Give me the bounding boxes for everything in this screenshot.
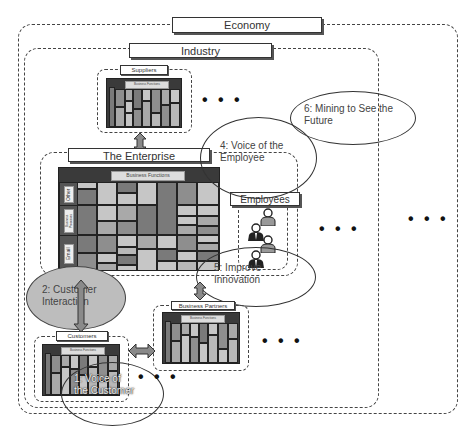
suppliers-label: Suppliers xyxy=(120,65,168,75)
callout-5-text: 5: Improve Innovation xyxy=(214,262,284,286)
matrix-header: Business Functions xyxy=(125,81,169,89)
partners-ellipsis: • • • xyxy=(262,336,303,346)
callout-1-text: 1: Voice of the Customer xyxy=(74,373,136,397)
enterprise-ellipsis: • • • xyxy=(319,224,360,234)
callout-4-text: 4: Voice of the Employee xyxy=(220,140,292,164)
matrix-header: Business Functions xyxy=(181,315,225,323)
suppliers-ellipsis: • • • xyxy=(202,95,243,105)
customers-label: Customers xyxy=(56,331,108,341)
double-arrow-icon xyxy=(73,280,89,332)
callout-2-text: 2: Customer Interaction xyxy=(42,284,102,308)
customers-ellipsis: • • • xyxy=(138,372,179,382)
row-label-other: Other xyxy=(59,182,79,207)
enterprise-label: The Enterprise xyxy=(68,148,210,162)
business-partners-label: Business Partners xyxy=(171,301,235,310)
suppliers-matrix: Business Functions xyxy=(106,78,182,128)
business-partners-matrix: Business Functions xyxy=(162,312,240,364)
matrix-header: Business Functions xyxy=(111,171,185,181)
matrix-header: Business Functions xyxy=(61,347,105,355)
double-arrow-icon xyxy=(129,344,155,358)
industry-label: Industry xyxy=(129,43,272,58)
row-label-business-processes: Business Processes xyxy=(59,205,79,237)
double-arrow-icon xyxy=(193,282,207,300)
enterprise-matrix: Business Functions Other Business Proces… xyxy=(58,167,220,270)
economy-ellipsis: • • • xyxy=(408,214,449,224)
callout-6-text: 6: Mining to See the Future xyxy=(304,103,394,127)
economy-label: Economy xyxy=(172,17,322,33)
